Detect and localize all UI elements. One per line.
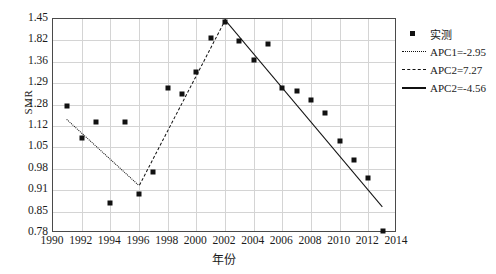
data-point-marker xyxy=(223,20,228,25)
gridline-horizontal xyxy=(53,83,395,84)
data-point-marker xyxy=(137,191,142,196)
chart-container: SMR 1.451.821.361.291.281.121.050.980.91… xyxy=(0,0,496,274)
plot-area xyxy=(52,18,396,232)
data-point-marker xyxy=(280,85,285,90)
legend-label: APC2=-4.56 xyxy=(430,82,486,94)
legend-item: APC2=7.27 xyxy=(402,62,496,77)
x-tick-label: 1990 xyxy=(41,234,64,246)
data-point-marker xyxy=(165,85,170,90)
y-tick-label: 1.12 xyxy=(2,119,48,131)
data-point-marker xyxy=(337,138,342,143)
x-tick-label: 2004 xyxy=(241,234,264,246)
gridline-vertical xyxy=(110,19,111,231)
legend-swatch-icon xyxy=(402,46,426,57)
x-tick-label: 2012 xyxy=(356,234,379,246)
trend-line-solid xyxy=(224,19,382,207)
data-point-marker xyxy=(65,104,70,109)
data-point-marker xyxy=(366,176,371,181)
y-tick-label: 1.29 xyxy=(2,76,48,88)
legend-label: APC1=-2.95 xyxy=(430,46,486,58)
data-point-marker xyxy=(180,91,185,96)
data-point-marker xyxy=(151,170,156,175)
x-axis-title: 年份 xyxy=(52,250,396,268)
y-tick-label: 1.05 xyxy=(2,140,48,152)
y-tick-label: 1.45 xyxy=(2,12,48,24)
gridline-horizontal xyxy=(53,147,395,148)
data-point-marker xyxy=(251,57,256,62)
x-tick-label: 2010 xyxy=(327,234,350,246)
gridline-vertical xyxy=(368,19,369,231)
gridline-horizontal xyxy=(53,126,395,127)
gridline-horizontal xyxy=(53,105,395,106)
data-point-marker xyxy=(108,201,113,206)
data-point-marker xyxy=(323,110,328,115)
gridline-horizontal xyxy=(53,190,395,191)
trend-line-dotted xyxy=(67,119,139,185)
x-tick-label: 1994 xyxy=(98,234,121,246)
x-tick-label: 2002 xyxy=(213,234,236,246)
gridline-vertical xyxy=(196,19,197,231)
x-tick-label: 2006 xyxy=(270,234,293,246)
legend-item: 实测 xyxy=(402,26,496,41)
legend-square-icon xyxy=(410,31,415,36)
gridline-horizontal xyxy=(53,62,395,63)
data-point-marker xyxy=(194,70,199,75)
legend-swatch-icon xyxy=(402,64,426,75)
data-point-marker xyxy=(309,98,314,103)
x-tick-label: 2014 xyxy=(385,234,408,246)
y-tick-label: 0.91 xyxy=(2,183,48,195)
legend-label: 实测 xyxy=(430,26,452,42)
y-axis-tick-labels: 1.451.821.361.291.281.121.050.980.910.85… xyxy=(0,18,48,232)
y-tick-label: 1.28 xyxy=(2,98,48,110)
gridline-vertical xyxy=(282,19,283,231)
gridline-vertical xyxy=(168,19,169,231)
gridline-vertical xyxy=(311,19,312,231)
y-tick-label: 0.98 xyxy=(2,162,48,174)
gridline-vertical xyxy=(139,19,140,231)
x-tick-label: 1998 xyxy=(155,234,178,246)
legend-label: APC2=7.27 xyxy=(430,64,482,76)
legend-item: APC2=-4.56 xyxy=(402,80,496,95)
data-point-marker xyxy=(122,120,127,125)
x-axis-tick-labels: 1990199219941996199820002002200420062008… xyxy=(52,234,396,250)
y-tick-label: 1.36 xyxy=(2,55,48,67)
legend-line-icon xyxy=(402,51,426,52)
data-point-marker xyxy=(237,38,242,43)
x-tick-label: 1992 xyxy=(69,234,92,246)
data-point-marker xyxy=(79,135,84,140)
x-tick-label: 1996 xyxy=(127,234,150,246)
gridline-horizontal xyxy=(53,212,395,213)
y-tick-label: 0.85 xyxy=(2,205,48,217)
gridline-horizontal xyxy=(53,169,395,170)
legend-item: APC1=-2.95 xyxy=(402,44,496,59)
legend-line-icon xyxy=(402,69,426,70)
data-point-marker xyxy=(208,35,213,40)
x-tick-label: 2008 xyxy=(299,234,322,246)
legend-swatch-icon xyxy=(402,28,426,39)
gridline-horizontal xyxy=(53,40,395,41)
legend-swatch-icon xyxy=(402,82,426,93)
trend-line-dashed xyxy=(139,19,226,185)
y-tick-label: 1.82 xyxy=(2,33,48,45)
data-point-marker xyxy=(352,157,357,162)
legend-line-icon xyxy=(402,87,426,89)
x-tick-label: 2000 xyxy=(184,234,207,246)
gridline-vertical xyxy=(254,19,255,231)
data-point-marker xyxy=(266,41,271,46)
legend: 实测APC1=-2.95APC2=7.27APC2=-4.56 xyxy=(402,26,496,98)
gridline-vertical xyxy=(340,19,341,231)
data-point-marker xyxy=(294,88,299,93)
data-point-marker xyxy=(94,120,99,125)
gridline-vertical xyxy=(225,19,226,231)
gridline-vertical xyxy=(82,19,83,231)
